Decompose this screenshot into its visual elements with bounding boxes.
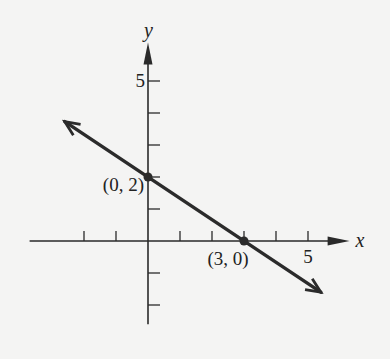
intercept-point	[144, 173, 153, 182]
graph-svg: 55 (0, 2)(3, 0) x y	[0, 0, 390, 359]
line-graph	[65, 122, 321, 293]
y-axis-arrow-icon	[144, 43, 153, 65]
axis-labels: x y	[142, 19, 365, 251]
coordinate-plane-figure: 55 (0, 2)(3, 0) x y	[0, 0, 390, 359]
x-axis-label: x	[355, 229, 365, 251]
axes	[30, 43, 350, 325]
y-tick-label: 5	[136, 70, 146, 91]
intercept-point	[240, 237, 249, 246]
point-label: (0, 2)	[103, 174, 144, 196]
point-label: (3, 0)	[207, 248, 248, 270]
y-axis-label: y	[142, 19, 153, 42]
x-tick-label: 5	[303, 246, 313, 267]
intercept-points: (0, 2)(3, 0)	[103, 173, 249, 271]
x-axis-arrow-icon	[328, 237, 350, 246]
plotted-line	[65, 122, 321, 293]
